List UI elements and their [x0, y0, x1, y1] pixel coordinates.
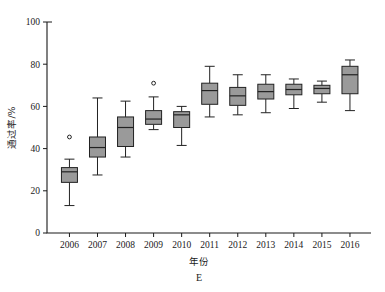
x-tick-label-2008: 2008 [116, 240, 135, 250]
y-tick-label-60: 60 [31, 102, 41, 112]
x-tick-label-2007: 2007 [88, 240, 107, 250]
x-tick-label-2006: 2006 [60, 240, 79, 250]
box-2010 [174, 112, 190, 128]
x-tick-label-2013: 2013 [256, 240, 275, 250]
chart-axes [47, 22, 371, 233]
boxplot-figure: 1008060402002006200720082009201020112012… [0, 0, 385, 292]
box-2008 [118, 117, 134, 147]
x-tick-label-2009: 2009 [144, 240, 163, 250]
y-tick-label-100: 100 [26, 17, 41, 27]
y-tick-label-20: 20 [31, 186, 41, 196]
y-tick-label-80: 80 [31, 60, 41, 70]
y-tick-label-40: 40 [31, 144, 41, 154]
y-tick-label-0: 0 [35, 228, 40, 238]
x-tick-label-2016: 2016 [340, 240, 359, 250]
box-2011 [202, 83, 218, 104]
box-2006 [61, 168, 77, 183]
x-tick-label-2012: 2012 [228, 240, 247, 250]
box-2016 [342, 66, 358, 93]
outlier-2009-0 [152, 81, 156, 85]
box-2015 [314, 85, 330, 93]
x-tick-label-2010: 2010 [172, 240, 191, 250]
x-tick-label-2011: 2011 [200, 240, 219, 250]
x-tick-label-2015: 2015 [312, 240, 331, 250]
x-axis-title: 年份 [189, 256, 209, 267]
y-axis-title: 通过率/% [6, 106, 17, 148]
box-2009 [146, 111, 162, 125]
boxplot-canvas: 1008060402002006200720082009201020112012… [0, 0, 385, 292]
x-tick-label-2014: 2014 [284, 240, 303, 250]
figure-panel-label: E [196, 272, 202, 283]
outlier-2006-0 [68, 135, 72, 139]
